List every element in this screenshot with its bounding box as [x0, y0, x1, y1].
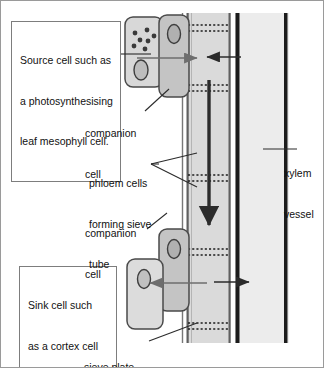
companion-cell-top [159, 15, 189, 97]
source-callout-line-1: Source cell such as [20, 54, 113, 68]
companion-top-line-1: companion [85, 127, 136, 141]
companion-bottom-line-2: cell [85, 268, 136, 282]
source-cell [125, 17, 163, 87]
nucleus [168, 25, 181, 44]
nucleus [168, 240, 181, 259]
xylem-line-2: vessel [284, 208, 314, 222]
sieve-plate-line-1: sieve plate [84, 361, 134, 368]
label-sieve-plate: sieve plate [84, 334, 134, 368]
leader-companion-top [145, 89, 169, 111]
nucleus [134, 60, 148, 80]
label-companion-cell-bottom: companion cell [85, 200, 136, 308]
xylem-line-1: xylem [284, 167, 314, 181]
label-xylem-vessel: xylem vessel [284, 140, 314, 248]
phloem-line-1: phloem cells [89, 177, 151, 191]
companion-bottom-line-1: companion [85, 227, 136, 241]
phloem-translocation-diagram: Source cell such as a photosynthesising … [0, 0, 324, 368]
xylem-vessel [235, 13, 289, 343]
